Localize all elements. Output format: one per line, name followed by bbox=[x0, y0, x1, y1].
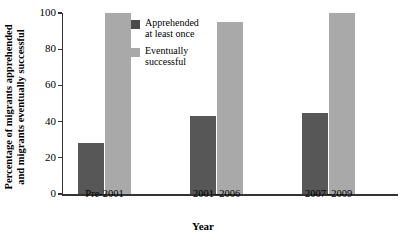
y-axis-title-wrapper: Percentage of migrants apprehended and m… bbox=[0, 0, 30, 200]
y-tick-label: 80 bbox=[32, 43, 56, 54]
legend-item-successful: Eventually successful bbox=[131, 46, 227, 67]
bar-successful bbox=[105, 13, 131, 194]
bar-chart: Percentage of migrants apprehended and m… bbox=[0, 0, 406, 241]
y-tick-mark bbox=[58, 157, 63, 158]
y-tick-label: 60 bbox=[32, 79, 56, 90]
legend-swatch-successful-icon bbox=[131, 48, 140, 57]
x-category-label: Pre-2001 bbox=[60, 188, 150, 199]
y-tick-mark bbox=[58, 49, 63, 50]
y-axis-line bbox=[62, 13, 63, 194]
y-axis-title: Percentage of migrants apprehended and m… bbox=[3, 7, 27, 207]
legend-label-apprehended: Apprehended at least once bbox=[145, 18, 199, 39]
y-tick-label: 40 bbox=[32, 116, 56, 127]
plot-area: 020406080100 bbox=[62, 13, 398, 194]
bar-apprehended bbox=[190, 116, 216, 194]
x-category-label: 2001–2006 bbox=[172, 188, 262, 199]
y-tick-mark bbox=[58, 85, 63, 86]
x-axis-title: Year bbox=[0, 220, 406, 232]
legend-swatch-apprehended-icon bbox=[131, 20, 140, 29]
y-tick-mark bbox=[58, 121, 63, 122]
chart-legend: Apprehended at least once Eventually suc… bbox=[131, 18, 227, 74]
y-tick-label: 0 bbox=[32, 188, 56, 199]
bar-successful bbox=[329, 13, 355, 194]
legend-label-successful: Eventually successful bbox=[145, 46, 188, 67]
y-tick-mark bbox=[58, 12, 63, 13]
legend-item-apprehended: Apprehended at least once bbox=[131, 18, 227, 39]
bar-apprehended bbox=[78, 143, 104, 194]
x-category-label: 2007–2009 bbox=[284, 188, 374, 199]
bar-apprehended bbox=[302, 113, 328, 194]
y-tick-label: 20 bbox=[32, 152, 56, 163]
y-tick-label: 100 bbox=[32, 7, 56, 18]
